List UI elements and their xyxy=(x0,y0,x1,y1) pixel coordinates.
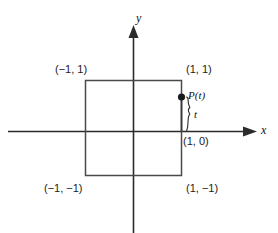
point-p-marker xyxy=(178,93,185,100)
label-y-axis: y xyxy=(136,12,141,24)
label-bottom-left-corner: (−1, −1) xyxy=(44,183,83,194)
arc-length-brace xyxy=(187,97,190,132)
coordinate-plane-figure: (−1, 1) (1, 1) (−1, −1) (1, −1) (1, 0) P… xyxy=(0,0,278,233)
label-top-right-corner: (1, 1) xyxy=(186,64,212,75)
label-x-axis: x xyxy=(261,124,266,136)
label-point-p-of-t: P(t) xyxy=(188,90,205,101)
y-axis-arrowhead xyxy=(129,25,139,38)
label-arc-length-t: t xyxy=(194,109,197,120)
label-point-one-zero: (1, 0) xyxy=(183,136,209,147)
label-bottom-right-corner: (1, −1) xyxy=(186,183,218,194)
x-axis-arrowhead xyxy=(243,127,257,137)
label-top-left-corner: (−1, 1) xyxy=(55,64,87,75)
figure-canvas xyxy=(0,0,278,233)
